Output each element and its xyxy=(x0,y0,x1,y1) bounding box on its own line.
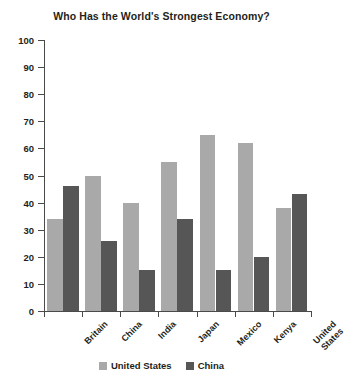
chart-legend: United StatesChina xyxy=(0,360,323,371)
bar-group xyxy=(235,40,273,311)
y-axis-tick-label: 60 xyxy=(0,143,34,154)
y-axis-tick-label: 40 xyxy=(0,197,34,208)
bar xyxy=(123,203,139,311)
y-axis-tick-label: 100 xyxy=(0,35,34,46)
bar xyxy=(177,219,193,311)
bar xyxy=(161,162,177,311)
chart-title: Who Has the World's Strongest Economy? xyxy=(0,10,323,22)
y-axis-tick-label: 90 xyxy=(0,62,34,73)
legend-swatch-icon xyxy=(186,362,194,370)
x-axis-tick xyxy=(273,311,274,317)
bar-group xyxy=(197,40,235,311)
bar xyxy=(200,135,216,311)
x-axis-tick xyxy=(120,311,121,317)
x-axis-label: Japan xyxy=(196,319,221,344)
bar xyxy=(101,241,117,311)
x-axis-label: China xyxy=(119,319,144,344)
bar xyxy=(47,219,63,311)
x-axis-tick xyxy=(311,311,312,317)
x-axis-label: Kenya xyxy=(272,319,298,345)
bar xyxy=(216,270,232,311)
y-axis-tick-label: 70 xyxy=(0,116,34,127)
y-axis-tick-label: 50 xyxy=(0,170,34,181)
bar-group xyxy=(158,40,196,311)
legend-swatch-icon xyxy=(99,362,107,370)
bar xyxy=(139,270,155,311)
x-axis-label: Mexico xyxy=(235,319,264,348)
bar-group xyxy=(273,40,311,311)
bar xyxy=(85,176,101,312)
x-axis-tick xyxy=(158,311,159,317)
bar-group xyxy=(120,40,158,311)
y-axis-tick-label: 20 xyxy=(0,251,34,262)
bar xyxy=(63,186,79,311)
x-axis-tick xyxy=(82,311,83,317)
bar xyxy=(276,208,292,311)
x-axis-tick xyxy=(44,311,45,317)
x-axis-label: Britain xyxy=(82,319,109,346)
x-axis-label: India xyxy=(156,319,178,341)
plot-area xyxy=(44,40,311,311)
y-axis-tick-label: 80 xyxy=(0,89,34,100)
x-axis-tick xyxy=(235,311,236,317)
bar-group xyxy=(44,40,82,311)
bar xyxy=(238,143,254,311)
legend-item: United States xyxy=(99,360,172,371)
legend-label: United States xyxy=(111,360,172,371)
legend-item: China xyxy=(186,360,224,371)
x-axis-tick xyxy=(197,311,198,317)
x-axis-line xyxy=(44,311,312,312)
bar xyxy=(254,257,270,311)
y-axis-tick-label: 0 xyxy=(0,306,34,317)
y-axis-tick-label: 10 xyxy=(0,278,34,289)
bar-group xyxy=(82,40,120,311)
legend-label: China xyxy=(198,360,224,371)
bar xyxy=(292,194,308,311)
x-axis-label: United States xyxy=(311,319,345,353)
y-axis-tick-label: 30 xyxy=(0,224,34,235)
